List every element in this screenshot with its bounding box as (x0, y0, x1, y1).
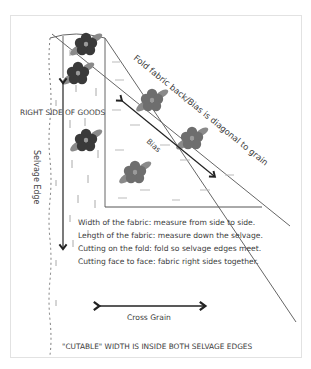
right-side-label: RIGHT SIDE OF GOODS (20, 108, 106, 117)
fabric-diagram: Fold fabric back/Bias is diagonal to gra… (0, 0, 311, 369)
note-width: Width of the fabric: measure from side t… (78, 218, 255, 227)
cross-grain-label: Cross Grain (127, 313, 171, 322)
note-length: Length of the fabric: measure down the s… (78, 231, 263, 240)
cutable-width-label: "CUTABLE" WIDTH IS INSIDE BOTH SELVAGE E… (62, 342, 253, 351)
note-face: Cutting face to face: fabric right sides… (78, 257, 259, 266)
selvage-edge-label: Selvage Edge (32, 150, 41, 205)
note-fold: Cutting on the fold: fold so selvage edg… (78, 244, 261, 253)
